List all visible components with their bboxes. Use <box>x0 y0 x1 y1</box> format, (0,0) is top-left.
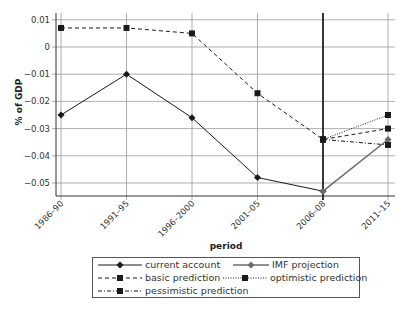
dashdot-square-line-icon <box>98 286 142 296</box>
data-series <box>58 25 392 195</box>
square-marker <box>385 142 391 148</box>
x-tick-label: 2006–08 <box>294 198 327 231</box>
legend-item-imf-projection: IMF projection <box>233 259 339 270</box>
legend-item-current-account: current account <box>98 259 220 270</box>
y-tick-label: −0.02 <box>24 96 50 106</box>
diamond-marker <box>123 71 130 78</box>
square-marker <box>320 136 326 142</box>
x-tick-label: 1996–2000 <box>156 198 197 239</box>
legend: current account IMF projection basic pre… <box>92 257 360 298</box>
dotted-square-line-icon <box>223 273 267 283</box>
y-axis-ticks: 0.010−0.01−0.02−0.03−0.04−0.05 <box>24 15 50 188</box>
y-axis-title: % of GDP <box>14 78 24 125</box>
x-tick-label: 1991–95 <box>98 198 131 231</box>
x-axis-ticks: 1986–901991–951996–20002001–052006–08201… <box>32 198 392 239</box>
legend-label: basic prediction <box>145 272 220 283</box>
gridlines <box>52 13 395 200</box>
y-tick-label: −0.01 <box>24 69 50 79</box>
square-marker <box>385 126 391 132</box>
legend-item-basic-prediction: basic prediction <box>98 272 220 283</box>
x-tick-label: 1986–90 <box>32 198 65 231</box>
x-axis-title: period <box>210 241 243 251</box>
y-tick-label: −0.04 <box>24 151 50 161</box>
square-marker <box>385 112 391 118</box>
y-tick-label: 0 <box>45 42 50 52</box>
y-tick-label: −0.03 <box>24 124 50 134</box>
diamond-marker <box>58 112 65 119</box>
square-marker <box>124 25 130 31</box>
legend-label: pessimistic prediction <box>145 285 249 296</box>
legend-label: current account <box>145 259 220 270</box>
series-optimistic-prediction <box>320 112 391 142</box>
legend-label: IMF projection <box>272 259 339 270</box>
x-tick-label: 2001–05 <box>229 198 262 231</box>
x-tick-label: 2011–15 <box>359 198 392 231</box>
y-tick-label: −0.05 <box>24 178 50 188</box>
legend-item-pessimistic-prediction: pessimistic prediction <box>98 285 249 296</box>
grey-diamond-line-icon <box>233 260 269 270</box>
y-tick-label: 0.01 <box>31 15 50 25</box>
series-basic-prediction <box>58 25 391 143</box>
square-marker <box>58 25 64 31</box>
square-marker <box>189 30 195 36</box>
legend-item-optimistic-prediction: optimistic prediction <box>223 272 367 283</box>
axes <box>56 13 395 196</box>
legend-label: optimistic prediction <box>270 272 367 283</box>
solid-diamond-line-icon <box>98 260 142 270</box>
square-marker <box>255 90 261 96</box>
dashed-square-line-icon <box>98 273 142 283</box>
